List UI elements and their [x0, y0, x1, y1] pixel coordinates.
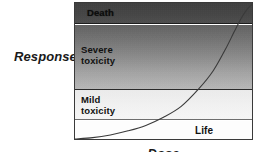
- y-axis-title: Response: [14, 49, 72, 64]
- band-death: Death: [75, 3, 252, 24]
- band-label-death: Death: [87, 7, 114, 18]
- band-label-life: Life: [195, 125, 213, 136]
- band-label-mild: Mild toxicity: [81, 94, 115, 116]
- band-mild: Mild toxicity: [75, 90, 252, 120]
- dose-response-figure: Response Death Severe toxicity Mild toxi…: [0, 0, 261, 152]
- plot-area: Death Severe toxicity Mild toxicity Life: [74, 2, 253, 140]
- band-severe: Severe toxicity: [75, 25, 252, 90]
- x-axis-title: Dose: [74, 146, 253, 152]
- band-label-severe: Severe toxicity: [81, 44, 115, 66]
- band-life: Life: [75, 121, 252, 140]
